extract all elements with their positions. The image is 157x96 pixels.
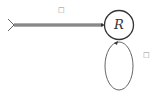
- self-loop-label: □: [143, 52, 150, 59]
- self-loop-transition: [105, 41, 133, 90]
- initial-transition-label: □: [58, 7, 65, 14]
- state-R-label: R: [114, 18, 124, 31]
- diagram-canvas: [0, 0, 157, 96]
- initial-transition-arrow: [8, 19, 104, 31]
